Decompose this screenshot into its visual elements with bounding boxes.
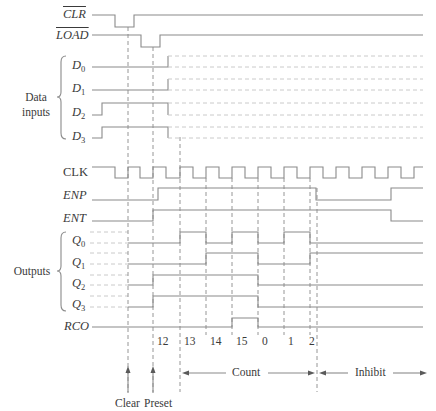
clk-label: CLK [63, 166, 88, 179]
q3-label: Q3 [72, 298, 85, 313]
d1-label: D1 [72, 82, 85, 97]
d3-waveform [92, 127, 168, 138]
d1-waveform [92, 79, 168, 90]
q1-label: Q1 [72, 256, 85, 271]
ent-waveform [92, 210, 423, 221]
count-value: 15 [236, 336, 248, 348]
d2-label: D2 [72, 106, 85, 121]
d0-label: D0 [72, 59, 85, 74]
q3-waveform [128, 296, 423, 307]
ent-label: ENT [63, 212, 86, 225]
preset-annotation: Preset [144, 398, 172, 410]
data-inputs-brace [57, 56, 66, 139]
data-inputs-group-label: Data inputs [17, 90, 55, 120]
count-value: 1 [288, 336, 294, 348]
clear-annotation: Clear [115, 398, 140, 410]
count-value: 12 [157, 336, 169, 348]
count-value: 13 [184, 336, 196, 348]
q2-waveform [128, 275, 423, 285]
clr-waveform [92, 15, 423, 27]
rco-waveform [92, 318, 423, 327]
q1-waveform [128, 253, 423, 264]
outputs-group-label: Outputs [10, 264, 54, 279]
q2-label: Q2 [72, 277, 85, 292]
rco-label: RCO [64, 320, 89, 333]
inhibit-annotation: Inhibit [355, 367, 386, 379]
q0-waveform [128, 232, 423, 243]
clk-waveform [92, 167, 423, 178]
enp-waveform [92, 188, 423, 200]
count-annotation: Count [232, 367, 260, 379]
enp-label: ENP [63, 189, 87, 202]
timing-diagram [0, 0, 436, 411]
count-value: 2 [309, 336, 315, 348]
d3-label: D3 [72, 130, 85, 145]
d2-waveform [92, 103, 168, 115]
count-value: 14 [210, 336, 222, 348]
outputs-brace [57, 232, 66, 311]
q0-label: Q0 [72, 234, 85, 249]
load-label: LOAD [56, 29, 89, 42]
clr-label: CLR [63, 8, 86, 21]
load-waveform [92, 35, 423, 47]
count-value: 0 [262, 336, 268, 348]
d0-waveform [92, 56, 168, 67]
